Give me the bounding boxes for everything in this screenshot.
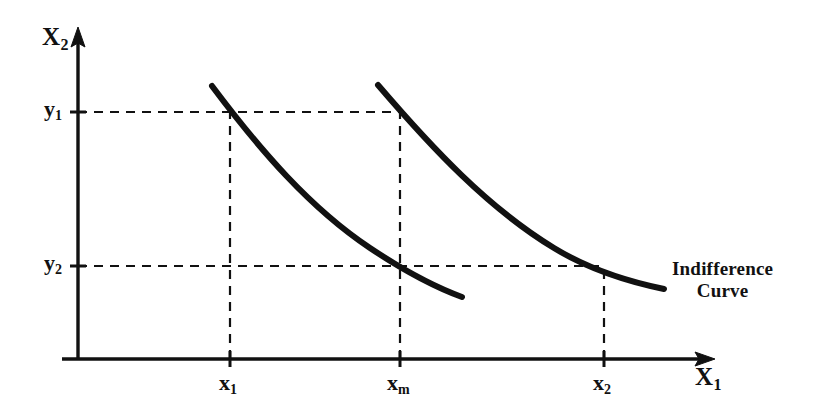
axis-group [62,27,715,367]
indifference-curve-upper [378,85,664,289]
y-axis-label-main: X [42,23,61,50]
indifference-curve-annotation: Indifference Curve [672,258,773,303]
y-axis-label: X2 [42,24,69,49]
x2-tick-label-main: x [593,370,604,395]
y2-tick-label: y2 [44,252,62,274]
y1-tick-label-sub: 1 [55,108,62,123]
xm-tick-label: xm [387,372,410,394]
y-axis-label-sub: 2 [61,36,70,53]
annotation-line-2: Curve [672,280,773,302]
y1-tick-label: y1 [44,98,62,120]
xm-tick-label-sub: m [398,382,410,397]
x1-tick-label-main: x [219,370,230,395]
xm-tick-label-main: x [387,370,398,395]
x2-tick-label-sub: 2 [604,382,611,397]
x1-tick-label: x1 [219,372,237,394]
indifference-curve-figure: X2 X1 y1 y2 x1 xm x2 Indifference Curve [0,0,824,416]
figure-canvas [0,0,824,416]
x-axis-label: X1 [695,364,722,389]
x1-tick-label-sub: 1 [230,382,237,397]
annotation-line-1: Indifference [672,258,773,279]
guide-line-group [78,112,604,359]
x2-tick-label: x2 [593,372,611,394]
y1-tick-label-main: y [44,96,55,121]
y2-tick-label-sub: 2 [55,262,62,277]
x-axis-label-sub: 1 [714,376,723,393]
y2-tick-label-main: y [44,250,55,275]
x-axis-label-main: X [695,363,714,390]
